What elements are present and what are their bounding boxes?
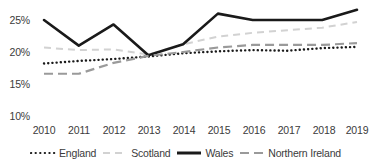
dotted-line-icon: [30, 148, 56, 158]
legend-item-northern-ireland[interactable]: Northern Ireland: [239, 147, 341, 159]
legend-item-scotland[interactable]: Scotland: [102, 147, 170, 159]
y-tick-label-25: 25%: [0, 14, 30, 26]
legend-item-wales[interactable]: Wales: [176, 147, 233, 159]
light-dashed-line-icon: [102, 148, 128, 158]
y-tick-label-10: 10%: [0, 110, 30, 122]
legend-label-wales: Wales: [205, 147, 233, 159]
grey-dashed-line-icon: [239, 148, 265, 158]
plot-area: [0, 0, 371, 164]
legend-label-scotland: Scotland: [131, 147, 170, 159]
x-tick-label-2013: 2013: [132, 124, 166, 136]
chart-legend: England Scotland Wales: [0, 141, 371, 164]
series-line-wales: [44, 10, 357, 55]
x-tick-label-2015: 2015: [202, 124, 236, 136]
x-tick-label-2017: 2017: [272, 124, 306, 136]
y-tick-label-15: 15%: [0, 78, 30, 90]
x-tick-label-2010: 2010: [27, 124, 61, 136]
line-chart: 25% 20% 15% 10% 2010 2011 2012 2013 2014…: [0, 0, 371, 164]
x-tick-label-2018: 2018: [307, 124, 341, 136]
y-tick-label-20: 20%: [0, 46, 30, 58]
series-line-northern-ireland: [44, 43, 357, 74]
x-tick-label-2016: 2016: [237, 124, 271, 136]
legend-item-england[interactable]: England: [30, 147, 96, 159]
x-tick-label-2019: 2019: [340, 124, 371, 136]
legend-label-northern-ireland: Northern Ireland: [268, 147, 341, 159]
solid-line-icon: [176, 148, 202, 158]
legend-label-england: England: [59, 147, 96, 159]
x-tick-label-2011: 2011: [62, 124, 96, 136]
x-tick-label-2014: 2014: [167, 124, 201, 136]
x-tick-label-2012: 2012: [97, 124, 131, 136]
